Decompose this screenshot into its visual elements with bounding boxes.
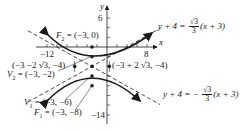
asymptote-negative-label: y + 4 = − √33(x + 3) bbox=[163, 86, 238, 103]
right-point-label: (−3 + 2 √3, −4) bbox=[112, 61, 167, 70]
tick-label-8: 8 bbox=[144, 50, 149, 59]
focus-f2-point bbox=[90, 45, 94, 49]
f1-leader bbox=[76, 87, 91, 109]
f2-label: F2 = (−3, 0) bbox=[56, 31, 99, 42]
vertex-v2-point bbox=[90, 55, 94, 59]
y-axis-label: y bbox=[100, 2, 104, 11]
vertex-v1-point bbox=[90, 74, 94, 78]
tick-label-neg12: −12 bbox=[40, 50, 54, 59]
asymptote-positive-label: y + 4 = √33(x + 3) bbox=[158, 18, 225, 35]
tick-label-6: 6 bbox=[98, 14, 103, 23]
x-axis-label: x bbox=[159, 38, 163, 47]
f1-label: F1 = (−3, −8) bbox=[34, 108, 82, 119]
center-point bbox=[90, 65, 94, 69]
v2-label: V2 = (−3, −2) bbox=[7, 70, 55, 81]
tick-label-neg14: −14 bbox=[91, 111, 105, 120]
